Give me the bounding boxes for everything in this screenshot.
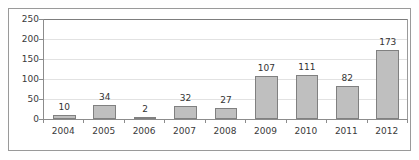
x-tick-label: 2004	[43, 126, 83, 136]
bar-value-label: 2	[125, 105, 165, 114]
x-tick-mark	[286, 119, 287, 123]
bar-slot: 111	[287, 19, 327, 119]
bar[interactable]	[174, 106, 197, 119]
bar-slot: 32	[165, 19, 205, 119]
y-tick-label: 250	[9, 15, 39, 24]
bar-series: 10342322710711182173	[44, 19, 408, 119]
x-tick-label: 2005	[83, 126, 123, 136]
x-tick-label: 2006	[124, 126, 164, 136]
bar[interactable]	[255, 76, 278, 119]
plot-area: 10342322710711182173	[43, 19, 407, 119]
bar[interactable]	[215, 108, 238, 119]
bar-slot: 173	[368, 19, 408, 119]
x-tick-mark	[326, 119, 327, 123]
bar[interactable]	[376, 50, 399, 119]
x-tick-mark	[164, 119, 165, 123]
bar-slot: 34	[84, 19, 124, 119]
bar-value-label: 82	[327, 74, 367, 83]
x-tick-label: 2011	[326, 126, 366, 136]
x-tick-mark	[83, 119, 84, 123]
x-tick-mark	[367, 119, 368, 123]
y-tick-label: 100	[9, 75, 39, 84]
x-tick-mark	[407, 119, 408, 123]
bar-value-label: 107	[246, 64, 286, 73]
x-tick-label: 2008	[205, 126, 245, 136]
bar-slot: 2	[125, 19, 165, 119]
bar-value-label: 111	[287, 63, 327, 72]
bar-value-label: 173	[368, 38, 408, 47]
y-tick-label: 200	[9, 35, 39, 44]
bar[interactable]	[93, 105, 116, 119]
y-tick-label: 150	[9, 55, 39, 64]
x-tick-mark	[124, 119, 125, 123]
x-tick-label: 2012	[367, 126, 407, 136]
y-tick-label: 50	[9, 95, 39, 104]
x-tick-mark	[245, 119, 246, 123]
chart-figure: 050100150200250 10342322710711182173 200…	[8, 8, 411, 151]
x-axis: 200420052006200720082009201020112012	[43, 119, 407, 152]
plot-right-edge	[407, 19, 408, 119]
x-tick-mark	[205, 119, 206, 123]
x-tick-label: 2007	[164, 126, 204, 136]
bar-value-label: 34	[84, 93, 124, 102]
y-axis: 050100150200250	[9, 9, 39, 152]
bar[interactable]	[336, 86, 359, 119]
x-tick-label: 2010	[286, 126, 326, 136]
y-tick-label: 0	[9, 115, 39, 124]
x-tick-label: 2009	[245, 126, 285, 136]
x-tick-mark	[43, 119, 44, 123]
bar[interactable]	[296, 75, 319, 119]
bar-value-label: 27	[206, 96, 246, 105]
bar-value-label: 32	[165, 94, 205, 103]
bar-slot: 82	[327, 19, 367, 119]
bar-slot: 10	[44, 19, 84, 119]
bar-slot: 27	[206, 19, 246, 119]
bar-value-label: 10	[44, 103, 84, 112]
bar-slot: 107	[246, 19, 286, 119]
